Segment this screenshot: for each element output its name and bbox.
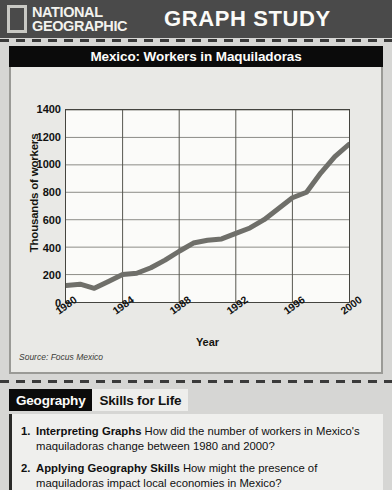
tab-geography-label: Geography [16,393,85,408]
plot-area [65,109,350,303]
y-tick-label: 200 [21,269,61,281]
national-geographic-logo: NATIONAL GEOGRAPHIC [7,5,127,33]
line-chart-svg [66,110,349,302]
tab-bar: Geography Skills for Life [9,389,188,411]
y-tick-label: 600 [21,214,61,226]
questions-panel: 1. Interpreting Graphs How did the numbe… [9,414,383,490]
page-title: Mexico: Workers in Maquiladoras [90,49,301,64]
data-series-line [66,144,349,288]
x-axis-label: Year [65,336,350,348]
y-tick-label: 400 [21,242,61,254]
dashed-divider-top [0,39,392,42]
tab-skills-for-life[interactable]: Skills for Life [92,389,188,411]
question-number: 1. [21,424,36,454]
chart-title-bar: Mexico: Workers in Maquiladoras [9,46,383,67]
question-lead: Interpreting Graphs [36,425,141,437]
dashed-divider-middle [0,380,392,383]
y-tick-label: 1400 [21,103,61,115]
question-item: 1. Interpreting Graphs How did the numbe… [21,424,377,454]
logo-line-national: NATIONAL [32,5,127,19]
vertical-gridlines [123,110,293,302]
y-tick-label: 800 [21,186,61,198]
question-body: Applying Geography Skills How might the … [36,461,377,490]
question-lead: Applying Geography Skills [36,462,180,474]
tab-skills-for-life-label: Skills for Life [99,393,181,408]
question-number: 2. [21,461,36,490]
question-body: Interpreting Graphs How did the number o… [36,424,377,454]
chart-container: Thousands of workers 0200400600800100012… [9,67,383,374]
logo-line-geographic: GEOGRAPHIC [32,19,127,33]
source-note: Source: Focus Mexico [19,352,103,362]
question-item: 2. Applying Geography Skills How might t… [21,461,377,490]
y-tick-label: 1000 [21,158,61,170]
section-title: GRAPH STUDY [164,6,331,32]
y-axis-ticks: 0200400600800100012001400 [11,109,61,303]
y-tick-label: 1200 [21,131,61,143]
tab-geography[interactable]: Geography [9,389,92,411]
nat-geo-banner: NATIONAL GEOGRAPHIC GRAPH STUDY [0,0,392,38]
nat-geo-rectangle-icon [7,5,27,33]
